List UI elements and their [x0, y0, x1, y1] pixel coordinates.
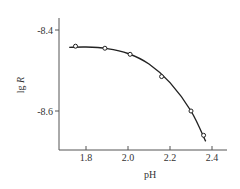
y-ticks: -8.4-8.6	[37, 25, 59, 117]
x-axis-label: pH	[144, 169, 156, 180]
x-tick-label: 2.4	[206, 152, 219, 163]
y-axis-label: lg R	[15, 77, 26, 93]
data-point	[202, 133, 206, 137]
data-point	[103, 46, 107, 50]
chart: -8.4-8.6 1.82.02.22.4 pH lg R	[0, 0, 240, 189]
data-point	[189, 109, 193, 113]
y-tick-label: -8.6	[37, 106, 53, 117]
x-tick-label: 2.0	[122, 152, 135, 163]
data-point	[160, 75, 164, 79]
x-ticks: 1.82.02.22.4	[80, 146, 219, 163]
axes	[59, 18, 227, 150]
y-tick-label: -8.4	[37, 25, 53, 36]
data-point	[128, 52, 132, 56]
x-tick-label: 1.8	[80, 152, 93, 163]
data-point	[74, 44, 78, 48]
x-tick-label: 2.2	[164, 152, 177, 163]
fit-curve	[69, 47, 206, 141]
